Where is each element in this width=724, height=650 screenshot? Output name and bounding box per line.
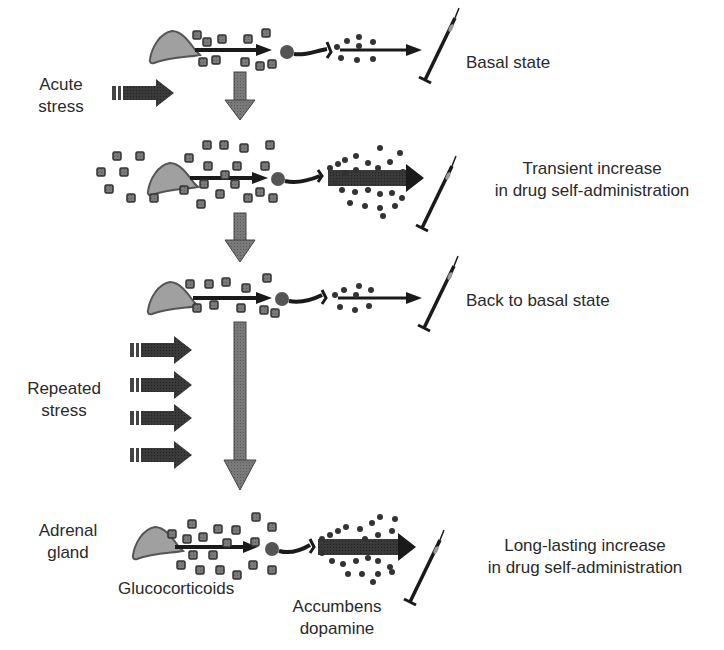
outcome-long-lasting-line2: in drug self-administration bbox=[455, 557, 715, 579]
outcome-back-basal: Back to basal state bbox=[466, 290, 610, 312]
down-arrow-1 bbox=[225, 72, 255, 120]
outcome-transient-line2: in drug self-administration bbox=[467, 180, 717, 202]
acute-stress-arrow bbox=[112, 79, 174, 107]
adrenal-line1: Adrenal bbox=[28, 520, 108, 542]
acute-stress-line1: Acute bbox=[26, 74, 96, 96]
outcome-long-lasting-line1: Long-lasting increase bbox=[455, 535, 715, 557]
glucocorticoids-label: Glucocorticoids bbox=[118, 578, 234, 600]
accumbens-line2: dopamine bbox=[282, 618, 392, 640]
row-back-basal bbox=[148, 256, 458, 331]
outcome-transient: Transient increase in drug self-administ… bbox=[467, 158, 717, 202]
acute-stress-label: Acute stress bbox=[26, 74, 96, 118]
adrenal-line2: gland bbox=[28, 542, 108, 564]
down-arrow-2 bbox=[225, 213, 255, 262]
repeated-stress-label: Repeated stress bbox=[14, 378, 114, 422]
accumbens-dopamine-label: Accumbens dopamine bbox=[282, 596, 392, 640]
acute-stress-line2: stress bbox=[26, 96, 96, 118]
repeated-stress-line2: stress bbox=[14, 400, 114, 422]
outcome-basal: Basal state bbox=[466, 52, 550, 74]
outcome-transient-line1: Transient increase bbox=[467, 158, 717, 180]
outcome-long-lasting: Long-lasting increase in drug self-admin… bbox=[455, 535, 715, 579]
accumbens-line1: Accumbens bbox=[282, 596, 392, 618]
repeated-stress-line1: Repeated bbox=[14, 378, 114, 400]
row-transient bbox=[97, 141, 456, 231]
down-arrow-long bbox=[224, 322, 256, 490]
adrenal-gland-label: Adrenal gland bbox=[28, 520, 108, 564]
repeated-stress-arrows bbox=[130, 336, 192, 469]
stress-drug-diagram: Basal state Transient increase in drug s… bbox=[0, 0, 724, 650]
row-basal bbox=[150, 8, 459, 83]
